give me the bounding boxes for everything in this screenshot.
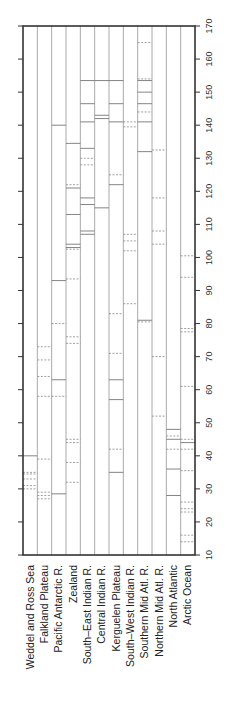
y-tick-label: 20	[204, 517, 214, 527]
category-labels: Weddel and Ross SeaFalkland PlateauPacif…	[24, 565, 194, 669]
category-label: South–West Indian R.	[124, 565, 136, 667]
category-label: Falkland Plateau	[38, 565, 50, 643]
y-tick-label: 110	[204, 217, 214, 231]
y-tick-label: 150	[204, 85, 214, 100]
y-tick-label: 40	[204, 451, 214, 461]
category-label: Arctic Ocean	[181, 565, 193, 625]
category-label: Zealand	[67, 565, 79, 603]
y-tick-label: 90	[204, 285, 214, 295]
category-label: Pacific Antarctic R.	[52, 565, 64, 653]
chart-columns	[23, 26, 195, 555]
category-label: Central Indian R.	[95, 565, 107, 644]
category-label: Kerguelen Plateau	[110, 565, 122, 652]
y-tick-label: 140	[204, 118, 214, 133]
category-label: South–East Indian R.	[81, 565, 93, 664]
y-axis-ticks: 1020304050607080901001101201301401501601…	[18, 18, 214, 560]
y-tick-label: 160	[204, 52, 214, 67]
y-tick-label: 50	[204, 418, 214, 428]
y-tick-label: 120	[204, 184, 214, 199]
y-tick-label: 130	[204, 151, 214, 166]
chart: 1020304050607080901001101201301401501601…	[0, 0, 228, 718]
y-tick-label: 10	[204, 550, 214, 560]
y-tick-label: 100	[204, 250, 214, 265]
category-label: Weddel and Ross Sea	[24, 565, 36, 669]
y-tick-label: 60	[204, 385, 214, 395]
category-label: Northern Mid Atl. R.	[153, 565, 165, 657]
y-tick-label: 70	[204, 352, 214, 362]
y-tick-label: 80	[204, 319, 214, 329]
y-tick-label: 170	[204, 18, 214, 33]
y-tick-label: 30	[204, 484, 214, 494]
category-label: North Atlantic	[167, 565, 179, 627]
category-label: Southern Mid Atl. R.	[138, 565, 150, 658]
